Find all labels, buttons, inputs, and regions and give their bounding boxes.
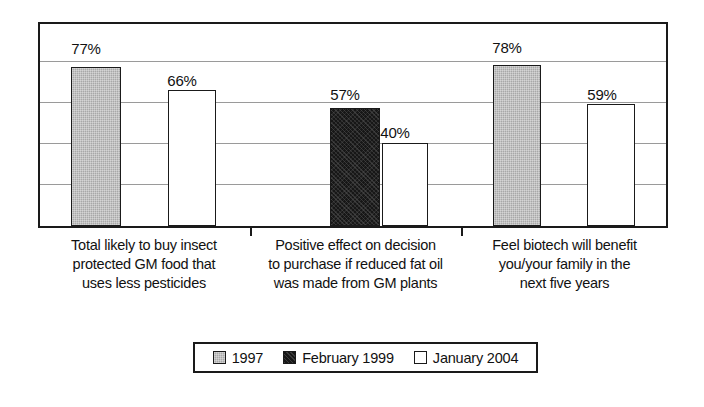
category-label-3: Feel biotech will benefit you/your famil… — [461, 236, 668, 293]
bar-label-cat3-january-2004: 59% — [560, 87, 644, 103]
bar-cat3-1997[interactable] — [493, 65, 541, 226]
legend-label-january-2004: January 2004 — [433, 350, 518, 366]
bar-label-cat2-january-2004: 40% — [353, 125, 437, 141]
legend-swatch-white-icon — [414, 351, 427, 364]
category-label-1-line-1: Total likely to buy insect — [38, 236, 250, 255]
category-label-2-line-3: was made from GM plants — [250, 274, 461, 293]
category-label-3-line-1: Feel biotech will benefit — [461, 236, 668, 255]
legend-item-january-2004[interactable]: January 2004 — [414, 350, 518, 366]
bar-cat1-january-2004[interactable] — [168, 90, 216, 226]
legend-swatch-black-icon — [283, 351, 296, 364]
legend-item-february-1999[interactable]: February 1999 — [283, 350, 394, 366]
category-label-1-line-2: protected GM food that — [38, 255, 250, 274]
bar-cat2-january-2004[interactable] — [382, 143, 428, 226]
category-label-2: Positive effect on decision to purchase … — [250, 236, 461, 293]
category-label-3-line-3: next five years — [461, 274, 668, 293]
category-label-1-line-3: uses less pesticides — [38, 274, 250, 293]
legend-label-1997: 1997 — [232, 350, 263, 366]
category-labels: Total likely to buy insect protected GM … — [38, 236, 668, 302]
bar-label-cat1-january-2004: 66% — [140, 73, 224, 89]
category-label-2-line-1: Positive effect on decision — [250, 236, 461, 255]
chart-legend: 1997 February 1999 January 2004 — [193, 342, 538, 373]
category-label-3-line-2: you/your family in the — [461, 255, 668, 274]
bar-label-cat2-february-1999: 57% — [303, 87, 387, 103]
bar-label-cat3-1997: 78% — [465, 40, 549, 56]
bar-cat3-january-2004[interactable] — [587, 104, 635, 226]
bar-chart: 77% 66% 57% 40% 78% 59% Total likely to … — [0, 0, 704, 407]
legend-swatch-gray-icon — [213, 351, 226, 364]
axis-tick-separator-2 — [461, 227, 463, 236]
axis-tick-separator-1 — [250, 227, 252, 236]
category-label-1: Total likely to buy insect protected GM … — [38, 236, 250, 293]
legend-label-february-1999: February 1999 — [302, 350, 394, 366]
bar-label-cat1-1997: 77% — [44, 41, 128, 57]
category-label-2-line-2: to purchase if reduced fat oil — [250, 255, 461, 274]
bar-cat1-1997[interactable] — [71, 67, 121, 226]
legend-item-1997[interactable]: 1997 — [213, 350, 263, 366]
